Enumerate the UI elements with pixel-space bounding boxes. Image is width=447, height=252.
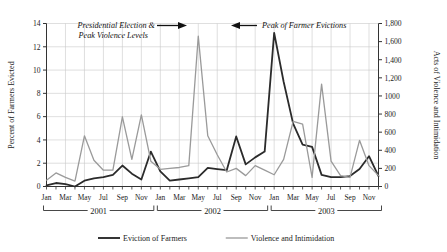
right-axis-tick-label: 1,400 bbox=[385, 56, 402, 65]
x-axis-month-label: Jan bbox=[269, 193, 279, 202]
year-label: 2002 bbox=[204, 207, 221, 216]
x-axis-month-label: Jan bbox=[155, 193, 165, 202]
left-axis-tick-label: 6 bbox=[37, 112, 41, 121]
x-axis-month-label: Sep bbox=[344, 193, 355, 202]
right-axis-tick-label: 800 bbox=[385, 110, 397, 119]
year-bracket-right bbox=[224, 206, 268, 211]
dual-axis-line-chart: 02468101214020040060080010001,2001,4001,… bbox=[0, 0, 447, 252]
chart-legend: Eviction of FarmersViolence and Intimida… bbox=[98, 234, 334, 243]
right-axis-tick-label: 400 bbox=[385, 146, 397, 155]
legend-label: Eviction of Farmers bbox=[123, 234, 187, 243]
eviction-annotation-arrow-head bbox=[231, 22, 240, 29]
right-axis-tick-label: 200 bbox=[385, 164, 397, 173]
left-axis-tick-label: 0 bbox=[37, 182, 41, 191]
left-axis-tick-label: 14 bbox=[33, 19, 41, 28]
election-annotation-line2: Peak Violence Levels bbox=[78, 31, 148, 40]
left-axis-tick-label: 4 bbox=[37, 136, 41, 145]
year-bracket-right bbox=[337, 206, 381, 211]
x-axis-month-label: Jan bbox=[42, 193, 52, 202]
year-label: 2001 bbox=[90, 207, 107, 216]
right-axis-tick-label: 1,200 bbox=[385, 74, 402, 83]
x-axis-month-label: Jul bbox=[99, 193, 108, 202]
series-line-violence-and-intimidation bbox=[47, 36, 379, 181]
year-label: 2003 bbox=[318, 207, 335, 216]
x-axis-month-label: Jul bbox=[213, 193, 222, 202]
election-annotation-arrow-head bbox=[178, 22, 187, 29]
year-bracket-left bbox=[157, 206, 201, 211]
legend-item[interactable]: Eviction of Farmers bbox=[98, 234, 187, 243]
right-axis-tick-label: 600 bbox=[385, 128, 397, 137]
x-axis-month-label: Mar bbox=[287, 193, 300, 202]
left-axis-tick-label: 2 bbox=[37, 159, 41, 168]
left-axis-tick-label: 12 bbox=[33, 43, 41, 52]
x-axis-month-label: Mar bbox=[173, 193, 186, 202]
left-axis-tick-label: 8 bbox=[37, 89, 41, 98]
right-axis-tick-label: 1000 bbox=[385, 92, 400, 101]
right-axis-tick-label: 1,800 bbox=[385, 19, 402, 28]
year-bracket-left bbox=[271, 206, 315, 211]
right-axis-tick-label: 0 bbox=[385, 182, 389, 191]
x-axis-month-label: Mar bbox=[59, 193, 72, 202]
x-axis-month-label: Jul bbox=[327, 193, 336, 202]
year-bracket: 2003 bbox=[271, 206, 381, 216]
legend-item[interactable]: Violence and Intimidation bbox=[226, 234, 335, 243]
x-axis-month-label: Nov bbox=[249, 193, 262, 202]
right-axis-tick-label: 1,600 bbox=[385, 37, 402, 46]
year-bracket: 2002 bbox=[157, 206, 267, 216]
year-bracket: 2001 bbox=[44, 206, 154, 216]
x-axis-month-label: Nov bbox=[363, 193, 376, 202]
chart-container: 02468101214020040060080010001,2001,4001,… bbox=[0, 0, 447, 252]
legend-label: Violence and Intimidation bbox=[251, 234, 335, 243]
x-axis-month-label: May bbox=[305, 193, 319, 202]
election-annotation-line1: Presidential Election & bbox=[77, 21, 156, 30]
x-axis-month-label: Sep bbox=[231, 193, 242, 202]
axis-titles-layer: Percent of Farmers EvictedActs of Violen… bbox=[7, 51, 441, 160]
eviction-annotation-label: Peak of Farmer Evictions bbox=[261, 21, 346, 30]
year-bracket-left bbox=[44, 206, 88, 211]
year-brackets-layer: 200120022003 bbox=[44, 206, 382, 216]
left-axis-title: Percent of Farmers Evicted bbox=[7, 61, 16, 148]
year-bracket-right bbox=[110, 206, 154, 211]
x-axis-month-label: Nov bbox=[135, 193, 148, 202]
left-axis-tick-label: 10 bbox=[33, 66, 41, 75]
right-axis-title: Acts of Violence and Intimidation bbox=[432, 51, 441, 160]
x-axis-month-label: May bbox=[78, 193, 92, 202]
x-axis-month-label: May bbox=[191, 193, 205, 202]
annotations-layer: Presidential Election &Peak Violence Lev… bbox=[77, 21, 347, 40]
x-axis-month-label: Sep bbox=[117, 193, 128, 202]
